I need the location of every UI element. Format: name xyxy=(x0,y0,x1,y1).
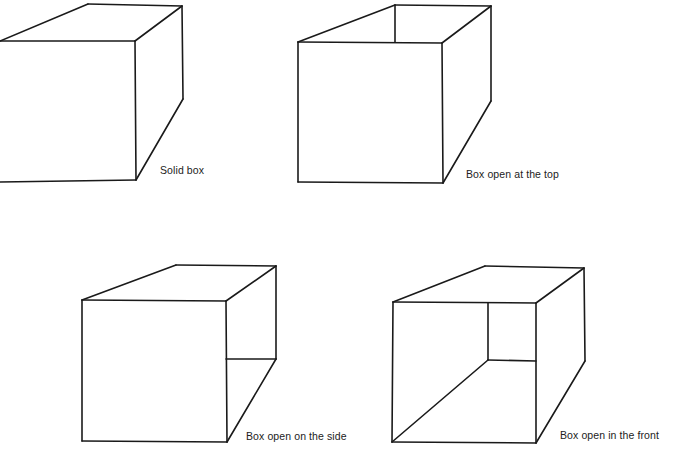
box-edge-line xyxy=(0,4,88,41)
box-edge-line xyxy=(82,265,176,300)
diagram-canvas: Solid box Box open at the top Box open o… xyxy=(0,0,679,449)
box-edge-line xyxy=(392,360,488,442)
box-edge-line xyxy=(395,5,491,6)
box-open-side-label: Box open on the side xyxy=(246,430,347,442)
box-open-top-drawing xyxy=(298,5,491,183)
box-edge-line xyxy=(488,360,536,361)
box-edge-line xyxy=(392,302,393,442)
box-edge-line xyxy=(182,6,183,99)
box-edge-line xyxy=(536,268,584,303)
box-edge-line xyxy=(298,5,395,42)
box-edge-line xyxy=(442,43,443,183)
box-edge-line xyxy=(82,441,227,442)
box-edge-line xyxy=(135,6,182,41)
box-edge-line xyxy=(442,6,491,43)
box-edge-line xyxy=(393,266,485,302)
box-edge-line xyxy=(298,182,443,183)
box-edge-line xyxy=(298,42,442,43)
box-edge-line xyxy=(88,4,182,6)
box-edge-line xyxy=(393,302,536,303)
box-edge-line xyxy=(584,268,585,361)
box-diagram xyxy=(0,0,679,449)
box-edge-line xyxy=(392,442,536,443)
box-open-front-drawing xyxy=(392,266,585,443)
box-edge-line xyxy=(0,180,136,182)
box-edge-line xyxy=(82,300,226,301)
box-edge-line xyxy=(135,41,136,180)
box-open-front-label: Box open in the front xyxy=(560,429,659,441)
box-open-top-label: Box open at the top xyxy=(466,168,559,180)
box-edge-line xyxy=(226,301,227,442)
box-edge-line xyxy=(226,266,276,301)
box-open-side-drawing xyxy=(82,265,276,442)
solid-box-drawing xyxy=(0,4,183,182)
box-edge-line xyxy=(176,265,276,266)
box-edge-line xyxy=(485,266,584,268)
solid-box-label: Solid box xyxy=(160,164,204,176)
